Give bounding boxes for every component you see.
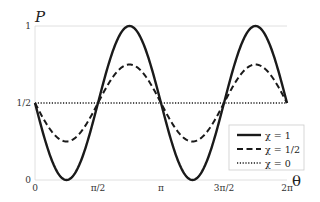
x-tick-label: 3π/2 <box>214 183 234 193</box>
y-tick-label: 1/2 <box>17 98 31 108</box>
y-axis-label: P <box>34 8 46 26</box>
x-tick-label: 0 <box>32 183 38 193</box>
x-tick-label: π <box>158 183 164 193</box>
legend-label: χ = 1 <box>265 130 291 141</box>
legend-label: χ = 0 <box>265 158 291 169</box>
y-tick-label: 0 <box>25 175 31 185</box>
legend: χ = 1χ = 1/2χ = 0 <box>229 125 304 170</box>
x-axis-label: θ <box>292 172 301 190</box>
y-tick-label: 1 <box>25 21 31 31</box>
x-tick-label: π/2 <box>91 183 106 193</box>
chart: 01/210π/2π3π/22π P θ χ = 1χ = 1/2χ = 0 <box>0 0 320 202</box>
legend-label: χ = 1/2 <box>265 144 300 155</box>
